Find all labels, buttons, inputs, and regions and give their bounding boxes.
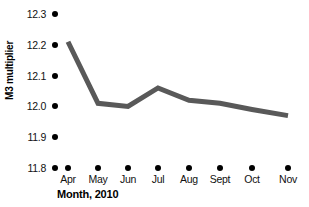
m3-multiplier-line-chart: M3 multiplier 12.3 12.2 12.1 12.0 11.9 1…: [0, 0, 309, 207]
plot-area: [0, 0, 309, 207]
m3-multiplier-series-line: [68, 42, 288, 116]
